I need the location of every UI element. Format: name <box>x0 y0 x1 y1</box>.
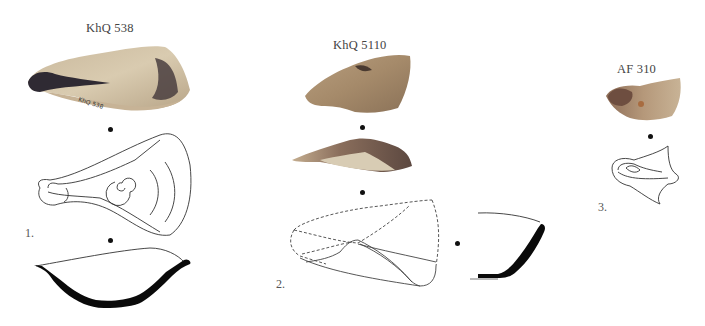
object-3-number: 3. <box>598 200 607 215</box>
object-3-top-view-drawing <box>0 0 705 326</box>
